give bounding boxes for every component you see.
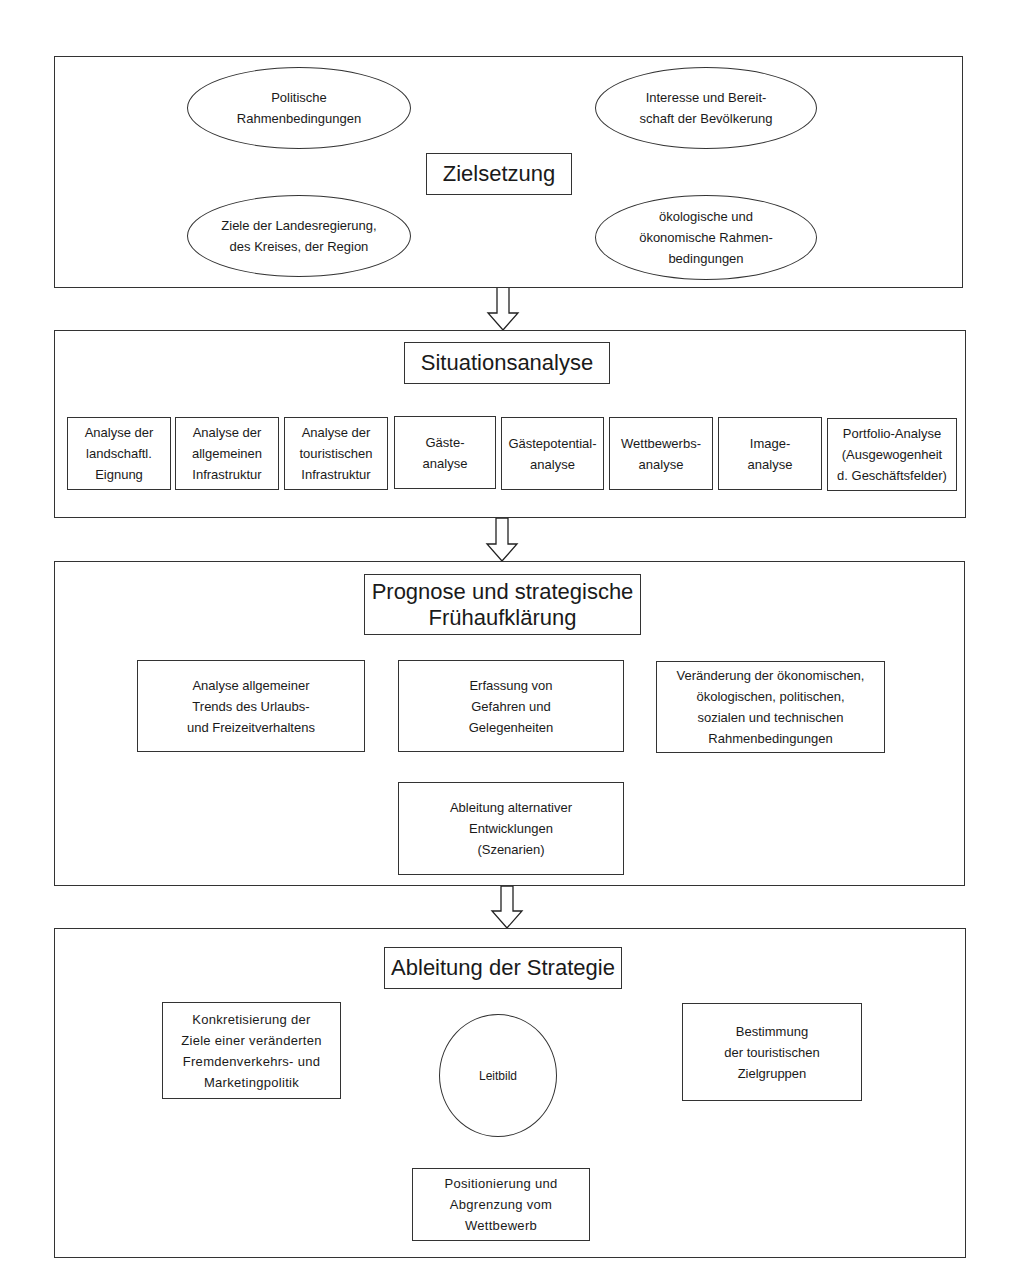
box-gaesteanalyse: Gäste- analyse <box>394 416 496 489</box>
ellipse-interesse-bevoelkerung: Interesse und Bereit- schaft der Bevölke… <box>595 67 817 149</box>
ellipse-ziele-landesregierung: Ziele der Landesregierung, des Kreises, … <box>187 195 411 277</box>
down-arrow-icon <box>487 518 517 561</box>
box-erfassung-gefahren-gelegenheiten: Erfassung von Gefahren und Gelegenheiten <box>398 660 624 752</box>
ellipse-politische-rahmenbedingungen: Politische Rahmenbedingungen <box>187 67 411 149</box>
box-portfolio-analyse: Portfolio-Analyse (Ausgewogenheit d. Ges… <box>827 418 957 491</box>
title-zielsetzung: Zielsetzung <box>426 153 572 195</box>
box-bestimmung-zielgruppen: Bestimmung der touristischen Zielgruppen <box>682 1003 862 1101</box>
box-veraenderung-rahmenbedingungen: Veränderung der ökonomischen, ökologisch… <box>656 661 885 753</box>
ellipse-oekologische-oekonomische: ökologische und ökonomische Rahmen- bedi… <box>595 195 817 280</box>
box-wettbewerbsanalyse: Wettbewerbs- analyse <box>609 417 713 490</box>
title-prognose-fruehaufklaerung: Prognose und strategische Frühaufklärung <box>364 574 641 635</box>
box-imageanalyse: Image- analyse <box>718 417 822 490</box>
down-arrow-icon <box>488 287 518 330</box>
box-ableitung-alternativer-entwicklungen: Ableitung alternativer Entwicklungen (Sz… <box>398 782 624 875</box>
box-analyse-allgemeiner-trends: Analyse allgemeiner Trends des Urlaubs- … <box>137 660 365 752</box>
circle-leitbild: Leitbild <box>439 1014 557 1137</box>
box-analyse-landschaftl-eignung: Analyse der landschaftl. Eignung <box>67 417 171 490</box>
title-ableitung-der-strategie: Ableitung der Strategie <box>384 947 622 989</box>
box-analyse-touristische-infrastruktur: Analyse der touristischen Infrastruktur <box>284 417 388 490</box>
box-konkretisierung-ziele: Konkretisierung der Ziele einer veränder… <box>162 1002 341 1099</box>
down-arrow-icon <box>492 886 522 928</box>
box-gaestepotentialanalyse: Gästepotential- analyse <box>501 417 604 490</box>
title-situationsanalyse: Situationsanalyse <box>404 342 610 384</box>
box-analyse-allgemeine-infrastruktur: Analyse der allgemeinen Infrastruktur <box>175 417 279 490</box>
box-positionierung-abgrenzung: Positionierung und Abgrenzung vom Wettbe… <box>412 1168 590 1241</box>
